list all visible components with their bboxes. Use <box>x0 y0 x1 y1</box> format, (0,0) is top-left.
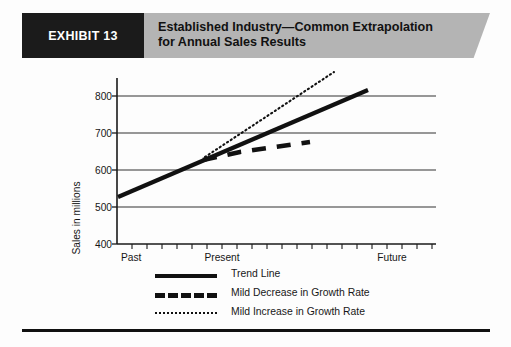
chart-figure: Sales in millions 800 700 600 500 400 <box>0 60 511 270</box>
exhibit-number-box: EXHIBIT 13 <box>22 13 144 58</box>
chart-svg: Sales in millions 800 700 600 500 400 <box>0 60 511 270</box>
exhibit-number-label: EXHIBIT 13 <box>48 29 118 43</box>
exhibit-banner: EXHIBIT 13 Established Industry—Common E… <box>22 13 490 58</box>
legend-label-mild-decrease: Mild Decrease in Growth Rate <box>231 287 370 298</box>
y-tick-label-500: 500 <box>95 202 112 213</box>
legend-label-trend-line: Trend Line <box>231 268 280 279</box>
y-axis-label: Sales in millions <box>71 181 82 254</box>
y-tick-label-400: 400 <box>95 239 112 250</box>
y-tick-label-800: 800 <box>95 91 112 102</box>
x-tick-label-future: Future <box>377 252 407 263</box>
exhibit-page: EXHIBIT 13 Established Industry—Common E… <box>0 0 511 347</box>
exhibit-title-line-1: Established Industry—Common Extrapolatio… <box>158 20 478 35</box>
exhibit-title: Established Industry—Common Extrapolatio… <box>158 20 478 49</box>
x-tick-label-present: Present <box>204 252 239 263</box>
series-trend-line <box>118 90 368 197</box>
exhibit-title-line-2: for Annual Sales Results <box>158 35 478 50</box>
legend-swatch-dashed-icon <box>155 293 217 303</box>
y-tick-label-700: 700 <box>95 128 112 139</box>
legend-item-mild-increase: Mild Increase in Growth Rate <box>155 306 455 322</box>
series-mild-decrease-line <box>203 142 310 160</box>
legend-item-trend-line: Trend Line <box>155 268 455 284</box>
legend-swatch-dotted-icon <box>155 312 217 319</box>
y-tick-label-600: 600 <box>95 165 112 176</box>
legend-item-mild-decrease: Mild Decrease in Growth Rate <box>155 287 455 303</box>
x-tick-label-past: Past <box>121 252 142 263</box>
legend-swatch-solid-icon <box>155 274 217 283</box>
bottom-divider-rule <box>22 329 490 332</box>
chart-legend: Trend Line Mild Decrease in Growth Rate … <box>155 268 455 324</box>
x-axis-tick-marks <box>132 244 432 249</box>
legend-label-mild-increase: Mild Increase in Growth Rate <box>231 306 365 317</box>
